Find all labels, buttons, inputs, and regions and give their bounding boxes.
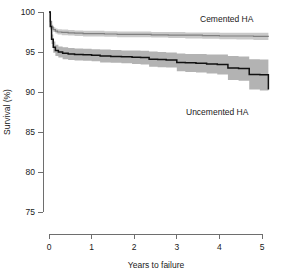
x-tick-labels: 012345 <box>47 242 265 252</box>
x-axis-line <box>49 234 262 239</box>
y-tick-label: 80 <box>26 167 36 177</box>
y-tick-label: 75 <box>26 207 36 217</box>
x-tick-label: 2 <box>132 242 137 252</box>
x-tick-label: 4 <box>217 242 222 252</box>
y-tick-label: 95 <box>26 47 36 57</box>
y-tick-label: 90 <box>26 87 36 97</box>
x-tick-label: 0 <box>47 242 52 252</box>
y-axis <box>38 12 43 212</box>
y-axis-line <box>38 12 43 212</box>
y-tick-label: 85 <box>26 127 36 137</box>
series-label-cemented: Cemented HA <box>200 14 254 24</box>
x-tick-label: 3 <box>174 242 179 252</box>
y-axis-title: Survival (%) <box>2 89 12 135</box>
survival-curve-figure: 7580859095100 012345 Years to failure Su… <box>0 0 295 273</box>
chart-canvas: 7580859095100 012345 Years to failure Su… <box>0 0 295 273</box>
y-tick-label: 100 <box>21 7 35 17</box>
x-tick-label: 1 <box>89 242 94 252</box>
x-axis <box>49 234 262 239</box>
series-label-uncemented: Uncemented HA <box>186 107 249 117</box>
x-axis-title: Years to failure <box>128 260 185 270</box>
x-tick-label: 5 <box>260 242 265 252</box>
y-tick-labels: 7580859095100 <box>21 7 35 217</box>
